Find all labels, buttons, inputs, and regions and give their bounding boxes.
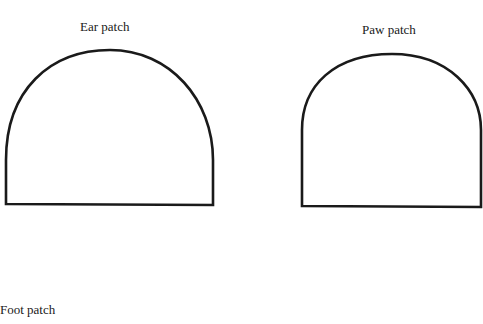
paw-patch-shape bbox=[302, 54, 481, 207]
ear-patch-shape bbox=[6, 50, 213, 205]
pattern-shapes bbox=[0, 0, 483, 324]
